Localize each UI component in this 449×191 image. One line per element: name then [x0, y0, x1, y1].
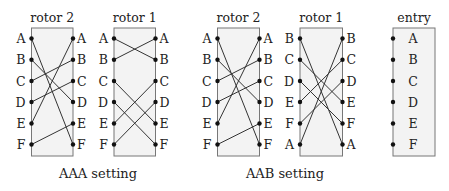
pin-dot	[298, 58, 302, 62]
pin-dot	[29, 100, 33, 104]
left-pin-label: E	[99, 116, 108, 131]
entry-label: F	[409, 137, 418, 152]
left-pin-label: F	[17, 137, 26, 152]
right-pin-label: E	[160, 116, 169, 131]
pin-dot	[153, 79, 157, 83]
pin-dot	[340, 121, 344, 125]
entry-title: entry	[397, 10, 431, 25]
right-pin-label: C	[264, 74, 274, 89]
right-pin-label: A	[159, 31, 170, 46]
right-pin-label: D	[264, 95, 274, 110]
pin-dot	[257, 142, 261, 146]
left-pin-label: B	[16, 52, 25, 67]
left-pin-label: D	[201, 95, 211, 110]
right-pin-label: B	[347, 31, 356, 46]
enigma-rotor-diagram: rotor 2AABBCCDDEEFFrotor 1AABBCCDDEEFFro…	[0, 0, 449, 191]
left-pin-label: C	[284, 52, 294, 67]
pin-dot	[112, 121, 116, 125]
pin-dot	[29, 79, 33, 83]
pin-dot	[215, 121, 219, 125]
left-pin-label: C	[98, 74, 108, 89]
entry-label: B	[408, 52, 417, 67]
left-pin-label: D	[15, 95, 25, 110]
aaa-caption: AAA setting	[58, 166, 137, 181]
pin-dot	[391, 142, 395, 146]
pin-dot	[112, 36, 116, 40]
right-pin-label: F	[160, 137, 169, 152]
pin-dot	[153, 100, 157, 104]
pin-dot	[391, 121, 395, 125]
pin-dot	[215, 58, 219, 62]
left-pin-label: A	[201, 31, 212, 46]
left-pin-label: E	[16, 116, 25, 131]
pin-dot	[257, 79, 261, 83]
pin-dot	[298, 142, 302, 146]
aaa-rotor1-box	[114, 28, 156, 156]
entry-label: A	[407, 31, 418, 46]
pin-dot	[391, 58, 395, 62]
aaa-rotor1-title: rotor 1	[113, 10, 157, 25]
entry-label: D	[408, 95, 418, 110]
right-pin-label: C	[77, 74, 87, 89]
left-pin-label: B	[202, 52, 211, 67]
pin-dot	[71, 36, 75, 40]
right-pin-label: B	[264, 52, 273, 67]
right-pin-label: F	[264, 137, 273, 152]
aab-rotor2: rotor 2AABBCCDDEEFF	[201, 10, 273, 156]
left-pin-label: B	[285, 31, 294, 46]
right-pin-label: E	[264, 116, 273, 131]
pin-dot	[112, 100, 116, 104]
pin-dot	[71, 79, 75, 83]
pin-dot	[215, 100, 219, 104]
right-pin-label: B	[77, 52, 86, 67]
right-pin-label: D	[160, 95, 170, 110]
pin-dot	[153, 58, 157, 62]
right-pin-label: D	[77, 95, 87, 110]
left-pin-label: A	[15, 31, 26, 46]
left-pin-label: A	[98, 31, 109, 46]
pin-dot	[257, 100, 261, 104]
pin-dot	[215, 142, 219, 146]
left-pin-label: F	[285, 116, 294, 131]
left-pin-label: C	[202, 74, 212, 89]
pin-dot	[298, 121, 302, 125]
pin-dot	[71, 100, 75, 104]
aab-rotor2-title: rotor 2	[217, 10, 261, 25]
right-pin-label: C	[160, 74, 170, 89]
right-pin-label: C	[347, 52, 357, 67]
left-pin-label: A	[284, 137, 295, 152]
pin-dot	[215, 36, 219, 40]
left-pin-label: E	[202, 116, 211, 131]
left-pin-label: E	[285, 95, 294, 110]
pin-dot	[112, 58, 116, 62]
pin-dot	[340, 79, 344, 83]
left-pin-label: B	[99, 52, 108, 67]
pin-dot	[153, 121, 157, 125]
pin-dot	[391, 79, 395, 83]
right-pin-label: D	[347, 74, 357, 89]
right-pin-label: A	[76, 31, 87, 46]
pin-dot	[71, 142, 75, 146]
pin-dot	[257, 36, 261, 40]
pin-dot	[391, 36, 395, 40]
pin-dot	[340, 58, 344, 62]
left-pin-label: F	[203, 137, 212, 152]
right-pin-label: B	[160, 52, 169, 67]
pin-dot	[391, 100, 395, 104]
pin-dot	[29, 58, 33, 62]
aab-rotor1: rotor 1BBCCDDEEFFAA	[284, 10, 357, 156]
entry-label: E	[408, 116, 417, 131]
aaa-rotor2-title: rotor 2	[30, 10, 74, 25]
pin-dot	[298, 79, 302, 83]
right-pin-label: F	[77, 137, 86, 152]
entry: entryABCDEF	[391, 10, 435, 156]
pin-dot	[340, 142, 344, 146]
aab-rotor1-title: rotor 1	[299, 10, 343, 25]
aaa-rotor2: rotor 2AABBCCDDEEFF	[15, 10, 87, 156]
pin-dot	[153, 142, 157, 146]
right-pin-label: A	[263, 31, 274, 46]
aaa-rotor1: rotor 1AABBCCDDEEFF	[98, 10, 170, 156]
pin-dot	[29, 142, 33, 146]
pin-dot	[71, 121, 75, 125]
left-pin-label: F	[99, 137, 108, 152]
